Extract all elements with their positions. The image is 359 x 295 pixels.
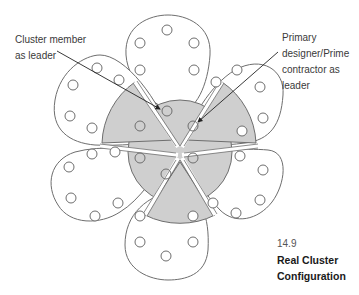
member-node [87, 123, 97, 133]
member-node [135, 38, 145, 48]
annotation-left-line2: as leader [15, 48, 86, 64]
member-node [113, 198, 123, 208]
member-node [235, 151, 245, 161]
member-node [258, 113, 268, 123]
member-node [208, 198, 218, 208]
figure-title-line2: Configuration [277, 268, 346, 284]
figure-number: 14.9 [277, 238, 296, 249]
member-node [135, 65, 145, 75]
annotation-right-line2: designer/Prime [282, 46, 349, 62]
member-node [258, 165, 268, 175]
member-node [135, 237, 145, 247]
member-node [232, 65, 242, 75]
figure-title: Real Cluster Configuration [277, 252, 346, 284]
member-node [188, 211, 198, 221]
annotation-right-line1: Primary [282, 30, 349, 46]
member-node [65, 111, 75, 121]
annotation-right-line4: leader [282, 78, 349, 94]
member-node [90, 211, 100, 221]
member-node [237, 126, 247, 136]
annotation-right-line3: contractor as [282, 62, 349, 78]
figure-title-line1: Real Cluster [277, 252, 346, 268]
member-node [68, 80, 78, 90]
member-node [161, 251, 171, 261]
member-node [211, 77, 221, 87]
member-node [188, 237, 198, 247]
annotation-left-line1: Cluster member [15, 32, 86, 48]
member-node [110, 147, 120, 157]
annotation-cluster-member: Cluster member as leader [15, 32, 86, 64]
annotation-prime-contractor: Primary designer/Prime contractor as lea… [282, 30, 349, 94]
member-node [255, 195, 265, 205]
member-node [231, 208, 241, 218]
member-node [189, 38, 199, 48]
member-node [66, 193, 76, 203]
member-node [255, 82, 265, 92]
member-node [64, 162, 74, 172]
member-node [162, 25, 172, 35]
member-node [189, 65, 199, 75]
member-node [87, 149, 97, 159]
member-node [135, 211, 145, 221]
